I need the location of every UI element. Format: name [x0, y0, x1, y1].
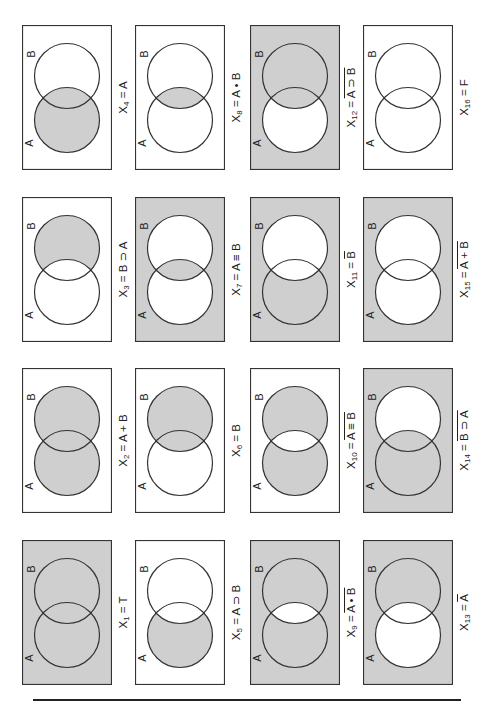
set-label-a: A — [136, 311, 148, 319]
equation-variable: X — [230, 449, 242, 457]
equation-expression: T — [117, 596, 129, 603]
set-label-a: A — [23, 482, 35, 490]
equation-equals: = — [458, 86, 470, 99]
equation-expression: A — [117, 81, 129, 89]
equation-expression: A ≡ B — [230, 243, 242, 271]
equation-variable: X — [458, 623, 470, 631]
equation-equals: = — [117, 604, 129, 617]
venn-panel-x14: BA — [363, 368, 453, 513]
equation-label-x3: X3 = B ⊃ A — [115, 197, 131, 342]
equation-equals: = — [458, 602, 470, 614]
equation-label-x16: X16 = F — [456, 25, 472, 170]
equation-label-x10: X10 = A ≡ B — [343, 368, 359, 513]
equation-subscript: 16 — [463, 99, 472, 108]
equation-label-x6: X6 = B — [228, 368, 244, 513]
equation-subscript: 6 — [235, 445, 244, 449]
equation-subscript: 3 — [122, 285, 131, 289]
equation-label-x13: X13 = A — [456, 540, 472, 685]
set-label-a: A — [136, 482, 148, 490]
venn-panel-x9: BA — [250, 540, 340, 685]
venn-panel-x16: BA — [363, 25, 453, 170]
equation-equals: = — [230, 432, 242, 445]
equation-equals: = — [458, 269, 470, 281]
set-label-b: B — [25, 222, 37, 229]
equation-equals: = — [345, 259, 357, 272]
venn-panel-x13: BA — [363, 540, 453, 685]
equation-subscript: 7 — [235, 284, 244, 288]
set-label-a: A — [364, 482, 376, 490]
equation-variable: X — [230, 633, 242, 641]
set-label-b: B — [366, 565, 378, 572]
equation-equals: = — [230, 616, 242, 628]
set-label-a: A — [23, 311, 35, 319]
equation-variable: X — [458, 108, 470, 116]
venn-panel-x11: BA — [250, 197, 340, 342]
equation-label-x4: X4 = A — [115, 25, 131, 170]
equation-label-x5: X5 = A ⊃ B — [228, 540, 244, 685]
equation-equals: = — [230, 98, 242, 110]
equation-label-x12: X12 = A ⊃ B — [343, 25, 359, 170]
set-label-a: A — [136, 139, 148, 147]
equation-expression: B ⊃ A — [458, 410, 470, 441]
equation-subscript: 12 — [350, 111, 359, 120]
equation-variable: X — [117, 459, 129, 467]
set-label-a: A — [251, 654, 263, 662]
equation-expression: A ⊃ B — [345, 68, 357, 99]
equation-variable: X — [117, 621, 129, 629]
set-label-b: B — [253, 565, 265, 572]
venn-panel-x15: BA — [363, 197, 453, 342]
equation-expression: A + B — [117, 414, 129, 442]
equation-expression: B ⊃ A — [117, 242, 129, 273]
set-label-b: B — [25, 565, 37, 572]
equation-subscript: 5 — [235, 628, 244, 632]
venn-panel-x10: BA — [250, 368, 340, 513]
equation-subscript: 1 — [122, 616, 131, 620]
set-label-a: A — [136, 654, 148, 662]
equation-equals: = — [345, 98, 357, 110]
equation-equals: = — [230, 271, 242, 283]
equation-expression: A ≡ B — [345, 412, 357, 440]
equation-equals: = — [117, 89, 129, 101]
equation-label-x2: X2 = A + B — [115, 368, 131, 513]
bottom-rule — [33, 699, 461, 701]
set-label-a: A — [251, 139, 263, 147]
equation-expression: B — [230, 424, 242, 432]
venn-panel-x2: BA — [22, 368, 112, 513]
equation-variable: X — [345, 461, 357, 469]
set-label-b: B — [25, 393, 37, 400]
set-label-b: B — [138, 393, 150, 400]
set-label-b: B — [138, 565, 150, 572]
equation-label-x9: X9 = A • B — [343, 540, 359, 685]
equation-expression: A — [458, 594, 470, 602]
equation-label-x8: X8 = A • B — [228, 25, 244, 170]
set-label-b: B — [253, 393, 265, 400]
venn-panel-x7: BA — [135, 197, 225, 342]
set-label-a: A — [251, 311, 263, 319]
equation-equals: = — [458, 441, 470, 454]
venn-panel-x1: BA — [22, 540, 112, 685]
set-label-b: B — [253, 50, 265, 57]
set-label-b: B — [366, 222, 378, 229]
equation-variable: X — [117, 290, 129, 298]
set-label-a: A — [364, 311, 376, 319]
set-label-b: B — [138, 50, 150, 57]
equation-subscript: 14 — [463, 454, 472, 463]
set-label-b: B — [366, 50, 378, 57]
equation-subscript: 11 — [350, 272, 359, 280]
equation-label-x7: X7 = A ≡ B — [228, 197, 244, 342]
set-label-b: B — [138, 222, 150, 229]
equation-label-x11: X11 = B — [343, 197, 359, 342]
set-label-a: A — [364, 139, 376, 147]
venn-panel-x6: BA — [135, 368, 225, 513]
equation-subscript: 4 — [122, 102, 131, 106]
equation-expression: A • B — [230, 73, 242, 98]
equation-variable: X — [230, 115, 242, 123]
venn-panel-x3: BA — [22, 197, 112, 342]
equation-equals: = — [117, 272, 129, 285]
set-label-b: B — [366, 393, 378, 400]
equation-variable: X — [117, 106, 129, 114]
equation-subscript: 2 — [122, 455, 131, 459]
set-label-a: A — [23, 139, 35, 147]
equation-equals: = — [117, 442, 129, 454]
equation-equals: = — [345, 440, 357, 452]
